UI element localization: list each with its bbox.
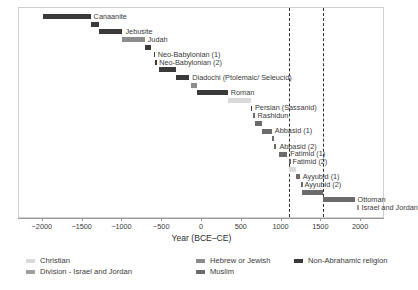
timeline-bar bbox=[159, 67, 175, 72]
timeline-bar bbox=[122, 37, 144, 42]
x-tick bbox=[360, 218, 361, 221]
bar-label: Diadochi (Ptolemaic/ Seleucid) bbox=[192, 74, 291, 81]
legend-swatch-icon bbox=[196, 270, 205, 274]
legend-label: Non-Abrahamic religion bbox=[308, 256, 387, 265]
timeline-bar bbox=[255, 121, 262, 126]
legend-item[interactable]: Non-Abrahamic religion bbox=[294, 256, 387, 265]
legend-swatch-icon bbox=[196, 259, 205, 263]
timeline-bar bbox=[262, 129, 272, 134]
timeline-bar bbox=[176, 75, 190, 80]
bar-label: Ayyubid (2) bbox=[304, 181, 341, 188]
bar-label: Canaanite bbox=[94, 13, 127, 20]
timeline-bar bbox=[253, 113, 255, 118]
timeline-bar bbox=[302, 190, 322, 195]
legend-item[interactable]: Christian bbox=[26, 256, 70, 265]
x-tick-label: 1000 bbox=[272, 223, 288, 231]
x-tick-label: 0 bbox=[199, 223, 203, 231]
x-tick-label: −1000 bbox=[111, 223, 132, 231]
legend-item[interactable]: Muslim bbox=[196, 267, 234, 276]
x-tick-label: −1500 bbox=[71, 223, 92, 231]
x-tick-label: 1500 bbox=[312, 223, 328, 231]
x-tick bbox=[42, 218, 43, 221]
timeline-bar bbox=[289, 167, 296, 172]
timeline-bar bbox=[296, 174, 299, 179]
bar-label: Fatimid (2) bbox=[292, 158, 327, 165]
timeline-bar bbox=[91, 22, 99, 27]
legend-swatch-icon bbox=[26, 259, 35, 263]
x-tick-label: 2000 bbox=[352, 223, 368, 231]
timeline-bar bbox=[145, 45, 151, 50]
timeline-bar bbox=[99, 29, 123, 34]
timeline-bar bbox=[154, 52, 156, 57]
legend-item[interactable]: Hebrew or Jewish bbox=[196, 256, 270, 265]
x-tick bbox=[161, 218, 162, 221]
timeline-bar bbox=[274, 144, 276, 149]
x-tick bbox=[281, 218, 282, 221]
x-tick bbox=[121, 218, 122, 221]
plot-area: CanaaniteJebusiteJudahNeo-Babylonian (1)… bbox=[19, 8, 383, 217]
bar-label: Israel and Jordan bbox=[362, 204, 418, 211]
legend-label: Hebrew or Jewish bbox=[210, 256, 270, 265]
timeline-bar bbox=[155, 60, 157, 65]
timeline-bar bbox=[228, 98, 251, 103]
timeline-bar bbox=[323, 197, 355, 202]
bar-label: Judah bbox=[148, 36, 168, 43]
legend-swatch-icon bbox=[294, 259, 303, 263]
timeline-bar bbox=[43, 14, 91, 19]
x-tick bbox=[320, 218, 321, 221]
bar-label: Neo-Babylonian (2) bbox=[159, 59, 222, 66]
bar-label: Roman bbox=[231, 89, 255, 96]
legend-label: Christian bbox=[40, 256, 70, 265]
timeline-bar bbox=[191, 83, 197, 88]
timeline-bar bbox=[251, 106, 253, 111]
x-tick bbox=[82, 218, 83, 221]
timeline-bar bbox=[357, 205, 359, 210]
bar-label: Abbasid (1) bbox=[275, 127, 312, 134]
timeline-bar bbox=[272, 136, 274, 141]
plot-frame: CanaaniteJebusiteJudahNeo-Babylonian (1)… bbox=[18, 7, 384, 218]
x-tick bbox=[241, 218, 242, 221]
legend-label: Division - Israel and Jordan bbox=[40, 267, 132, 276]
timeline-bar bbox=[289, 159, 291, 164]
annotation-vline-1 bbox=[289, 8, 290, 217]
legend-label: Muslim bbox=[210, 267, 234, 276]
timeline-bar bbox=[301, 182, 303, 187]
timeline-bar bbox=[279, 152, 287, 157]
legend-item[interactable]: Division - Israel and Jordan bbox=[26, 267, 132, 276]
x-tick-label: −500 bbox=[153, 223, 169, 231]
x-tick-label: 500 bbox=[235, 223, 247, 231]
x-axis-title: Year (BCE–CE) bbox=[0, 233, 403, 243]
legend-swatch-icon bbox=[26, 270, 35, 274]
x-tick-label: −2000 bbox=[32, 223, 53, 231]
timeline-bar bbox=[197, 90, 228, 95]
bar-label: Rashidun bbox=[258, 112, 289, 119]
x-tick bbox=[201, 218, 202, 221]
